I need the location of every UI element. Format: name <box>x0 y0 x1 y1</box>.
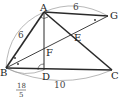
label-g: G <box>110 10 118 21</box>
geometry-diagram: A G B D C F E 6 6 10 18 5 <box>0 0 123 103</box>
measure-bd-denominator: 5 <box>19 91 23 99</box>
measure-bc: 10 <box>54 80 66 90</box>
angle-dot-g <box>94 19 96 21</box>
segment-ag <box>44 12 108 16</box>
label-b: B <box>0 67 7 78</box>
label-e: E <box>74 32 81 43</box>
segment-bc <box>6 68 112 70</box>
label-a: A <box>39 2 48 13</box>
measure-ag: 6 <box>73 2 79 12</box>
label-c: C <box>111 70 119 81</box>
segment-ab <box>6 12 44 68</box>
label-d: D <box>42 71 50 82</box>
angle-dot-b1 <box>14 57 16 59</box>
label-f: F <box>46 47 53 58</box>
measure-ab: 6 <box>18 30 24 40</box>
measure-bd-numerator: 18 <box>17 82 26 90</box>
angle-dot-b2 <box>17 63 19 65</box>
